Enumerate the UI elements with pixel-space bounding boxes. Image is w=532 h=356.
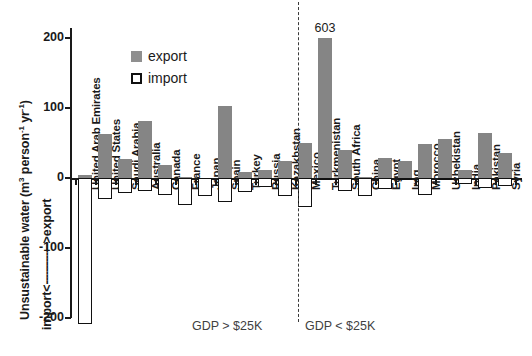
x-tickmark-6 <box>195 178 197 185</box>
x-tickmark-20 <box>475 178 477 185</box>
legend-label-import: import <box>148 70 187 86</box>
legend-swatch-import-icon <box>131 73 142 84</box>
y-tick-label-4: -200 <box>20 311 64 323</box>
x-tickmark-8 <box>235 178 237 185</box>
y-tick-label-1: 100 <box>20 101 64 113</box>
x-tickmark-21 <box>495 178 497 185</box>
direction-export-text: export <box>40 199 54 237</box>
x-tickmark-19 <box>455 178 457 185</box>
y-tickmark-4 <box>65 317 71 319</box>
x-tickmark-1 <box>95 178 97 185</box>
direction-arrow-left: < <box>40 285 54 292</box>
x-tickmark-14 <box>355 178 357 185</box>
y-tickmark-0 <box>65 37 71 39</box>
x-tickmark-7 <box>215 178 217 185</box>
x-tickmark-5 <box>175 178 177 185</box>
x-tickmark-9 <box>255 178 257 185</box>
x-tickmark-11 <box>295 178 297 185</box>
y-axis-title: Unsustainable water (m3 person-1 yr-1) <box>17 100 32 320</box>
y-tick-label-3: -100 <box>20 241 64 253</box>
y-tick-label-2: 0 <box>20 171 64 183</box>
y-tickmark-1 <box>65 107 71 109</box>
group-caption-high-gdp: GDP > $25K <box>192 319 262 333</box>
x-tickmark-end <box>515 178 517 185</box>
y-axis-title-text-c: yr <box>18 111 32 126</box>
x-tickmark-4 <box>155 178 157 185</box>
x-tickmark-15 <box>375 178 377 185</box>
x-tickmark-0 <box>75 178 77 185</box>
x-tickmark-2 <box>115 178 117 185</box>
x-tickmark-16 <box>395 178 397 185</box>
bar-value-annotation-0: 603 <box>307 21 343 35</box>
legend-label-export: export <box>148 48 187 64</box>
x-tickmark-18 <box>435 178 437 185</box>
legend-item-import: import <box>131 67 187 89</box>
x-tickmark-12 <box>315 178 317 185</box>
legend-swatch-export-icon <box>131 51 142 62</box>
y-axis-line <box>70 28 72 318</box>
group-caption-low-gdp: GDP < $25K <box>305 319 375 333</box>
chart-canvas: Unsustainable water (m3 person-1 yr-1) i… <box>0 0 532 356</box>
x-tickmark-17 <box>415 178 417 185</box>
y-tick-label-0: 200 <box>20 31 64 43</box>
y-axis-title-sup-b: -1 <box>17 126 26 133</box>
x-tickmark-10 <box>275 178 277 185</box>
legend-item-export: export <box>131 45 187 67</box>
bar-import-0 <box>78 178 92 324</box>
group-divider-line <box>298 2 299 322</box>
x-tickmark-13 <box>335 178 337 185</box>
x-axis-label-21: Syria <box>510 163 522 190</box>
x-tickmark-3 <box>135 178 137 185</box>
legend: export import <box>131 45 187 89</box>
y-tickmark-3 <box>65 247 71 249</box>
